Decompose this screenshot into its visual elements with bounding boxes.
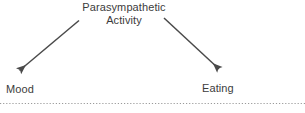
dotted-divider	[0, 103, 305, 104]
node-mood: Mood	[6, 83, 34, 96]
node-label-line-1: Parasympathetic	[78, 1, 170, 14]
node-label-line-2: Activity	[78, 14, 170, 27]
node-parasympathetic-activity: Parasympathetic Activity	[78, 1, 170, 26]
arrow-left	[20, 21, 80, 71]
node-eating: Eating	[202, 82, 234, 95]
arrow-right	[164, 18, 219, 69]
diagram-canvas: Parasympathetic Activity Mood Eating	[0, 0, 305, 113]
